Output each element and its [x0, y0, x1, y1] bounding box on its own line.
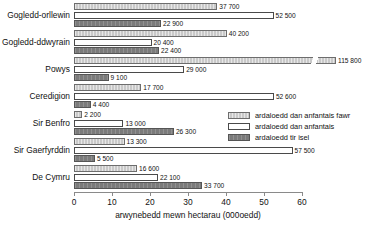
bar-value-label: 17 700 [143, 84, 163, 91]
bar [74, 30, 227, 37]
bar-value-label: 40 200 [229, 30, 249, 37]
plot-area: 37 70052 50022 90040 20020 40022 400115 … [74, 2, 302, 192]
x-axis-tick-label: 30 [176, 197, 200, 207]
x-axis-tick-label: 20 [138, 197, 162, 207]
bar-value-label: 16 600 [139, 165, 159, 172]
category-label: Sir Benfro [0, 119, 70, 128]
bar-value-label: 52 600 [276, 93, 296, 100]
bar [74, 120, 123, 127]
bar [74, 3, 217, 10]
axis-break-mark [311, 57, 318, 66]
bar [74, 165, 137, 172]
legend-swatch [228, 134, 250, 141]
x-axis-tick-label: 60 [290, 197, 314, 207]
bar [74, 93, 274, 100]
bar-value-label: 37 700 [219, 3, 239, 10]
bar [74, 12, 274, 19]
bar-value-label: 26 300 [176, 128, 196, 135]
legend-item: ardaloedd dan anfantais fawr [228, 110, 350, 121]
bar-value-label: 57 500 [295, 147, 315, 154]
bar-chart: Gogledd-orllewinGogledd-ddwyrainPowysCer… [0, 0, 392, 229]
bar [74, 74, 109, 81]
x-axis-tick [74, 192, 75, 196]
bar-value-label: 22 900 [163, 20, 183, 27]
x-axis-tick [264, 192, 265, 196]
bar [74, 84, 141, 91]
bar [74, 57, 336, 64]
category-label: Gogledd-ddwyrain [0, 38, 70, 47]
x-axis-tick [150, 192, 151, 196]
bar [74, 111, 82, 118]
legend-item: ardaloedd tir isel [228, 132, 350, 143]
bar [74, 66, 184, 73]
category-label: De Cymru [0, 173, 70, 182]
x-axis-tick [302, 192, 303, 196]
x-axis-tick-label: 10 [100, 197, 124, 207]
bar-value-label: 115 800 [338, 57, 361, 64]
legend: ardaloedd dan anfantais fawrardaloedd da… [228, 110, 350, 143]
bar-value-label: 2 200 [84, 111, 101, 118]
bar-value-label: 22 400 [161, 47, 181, 54]
x-axis-tick-label: 50 [252, 197, 276, 207]
bar [74, 155, 95, 162]
bar [74, 147, 293, 154]
x-axis-tick [188, 192, 189, 196]
x-axis-tick [226, 192, 227, 196]
bar [74, 101, 91, 108]
category-label: Ceredigion [0, 92, 70, 101]
bar-value-label: 33 700 [204, 182, 224, 189]
x-axis-tick-label: 40 [214, 197, 238, 207]
category-label: Powys [0, 65, 70, 74]
bar-value-label: 52 500 [276, 12, 296, 19]
bar-value-label: 13 300 [127, 138, 147, 145]
bar [74, 138, 125, 145]
bar-value-label: 9 100 [111, 74, 128, 81]
x-axis-tick [112, 192, 113, 196]
bar [74, 182, 202, 189]
legend-swatch [228, 112, 250, 119]
legend-label: ardaloedd tir isel [255, 134, 309, 142]
bar-value-label: 13 000 [125, 120, 145, 127]
bar [74, 20, 161, 27]
bar [74, 174, 158, 181]
legend-item: ardaloedd dan anfantais [228, 121, 350, 132]
bar-value-label: 22 100 [160, 174, 180, 181]
legend-swatch [228, 123, 250, 130]
bar-value-label: 29 000 [186, 66, 206, 73]
x-axis-tick-label: 0 [62, 197, 86, 207]
category-label: Sir Gaerfyrddin [0, 146, 70, 155]
category-axis: Gogledd-orllewinGogledd-ddwyrainPowysCer… [0, 0, 72, 192]
bar [74, 47, 159, 54]
bar [74, 39, 152, 46]
category-label: Gogledd-orllewin [0, 11, 70, 20]
bar-value-label: 5 500 [97, 155, 114, 162]
legend-label: ardaloedd dan anfantais [255, 123, 334, 131]
bar-value-label: 4 400 [93, 101, 110, 108]
bar [74, 128, 174, 135]
bar-value-label: 20 400 [154, 39, 174, 46]
legend-label: ardaloedd dan anfantais fawr [255, 112, 350, 120]
x-axis-title: arwynebedd mewn hectarau (000oedd) [74, 210, 302, 220]
